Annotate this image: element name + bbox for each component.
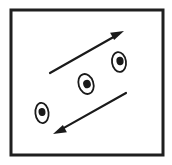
figure-container	[0, 0, 172, 165]
diagram-canvas	[0, 0, 172, 165]
